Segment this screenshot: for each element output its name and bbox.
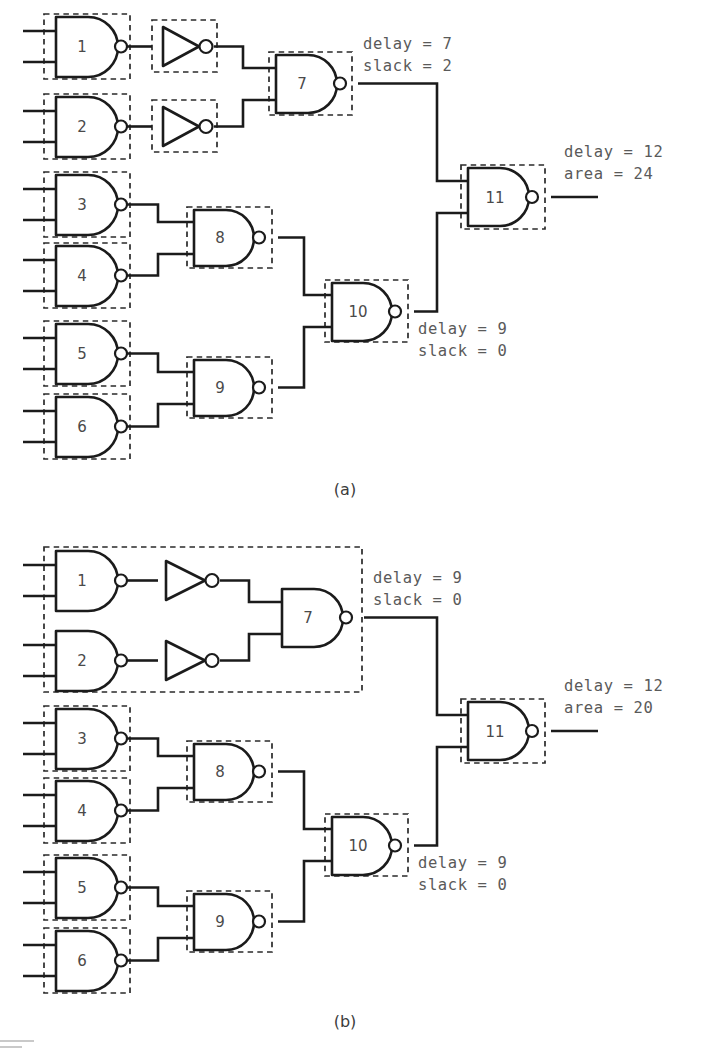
gate-1-label: 1 [77,572,87,590]
gate-8-label: 8 [215,229,225,247]
annot-delay: delay = 9 [418,320,507,338]
gate-4-label: 4 [77,802,87,820]
gate-1-label: 1 [77,38,87,56]
gate-9-label: 9 [215,913,225,931]
gate-2-label: 2 [77,118,87,136]
gate-10-label: 10 [348,837,367,855]
gate-7-label: 7 [297,75,307,93]
gate-10-label: 10 [348,303,367,321]
gate-11-label: 11 [485,723,504,741]
annot-slack: slack = 0 [418,876,507,894]
caption-b: (b) [334,1012,357,1031]
gate-7-label: 7 [303,609,313,627]
gate-8-label: 8 [215,763,225,781]
annot-delay: delay = 9 [373,569,462,587]
gate-5-label: 5 [77,879,87,897]
gate-9-label: 9 [215,379,225,397]
figure-canvas: 1 2 3 4 5 6 [0,0,709,1050]
gate-6-label: 6 [77,418,87,436]
annot-delay: delay = 7 [363,35,452,53]
gate-5-label: 5 [77,345,87,363]
scan-artifact [0,1046,22,1048]
annot-delay: delay = 9 [418,854,507,872]
annot-delay: delay = 12 [564,143,663,161]
scan-artifact [0,1040,34,1042]
annot-delay: delay = 12 [564,677,663,695]
gate-6-label: 6 [77,952,87,970]
gate-2-label: 2 [77,652,87,670]
gate-4-label: 4 [77,267,87,285]
annot-slack: slack = 2 [363,57,452,75]
annot-area: area = 24 [564,165,653,183]
caption-a: (a) [334,480,356,499]
gate-11-label: 11 [485,189,504,207]
gate-3-label: 3 [77,196,87,214]
gate-3-label: 3 [77,730,87,748]
circuit-diagram-svg: 1 2 3 4 5 6 [0,0,709,1050]
annot-slack: slack = 0 [418,342,507,360]
annot-area: area = 20 [564,699,653,717]
annot-slack: slack = 0 [373,591,462,609]
